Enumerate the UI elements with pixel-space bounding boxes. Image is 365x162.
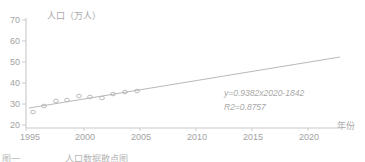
population-scatter-chart: 70 60 50 40 30 20 1995 2000 2005 2010 20… [0, 0, 365, 162]
plot-area [0, 0, 365, 162]
data-point [77, 94, 82, 98]
figure-caption: 图一 人口数据散点图 [2, 152, 128, 162]
data-point [31, 110, 36, 114]
data-point [54, 99, 59, 103]
y-axis-ticks [22, 20, 26, 125]
data-points [31, 89, 140, 114]
trendline [29, 57, 340, 108]
data-point [65, 98, 70, 102]
data-point [100, 96, 105, 100]
